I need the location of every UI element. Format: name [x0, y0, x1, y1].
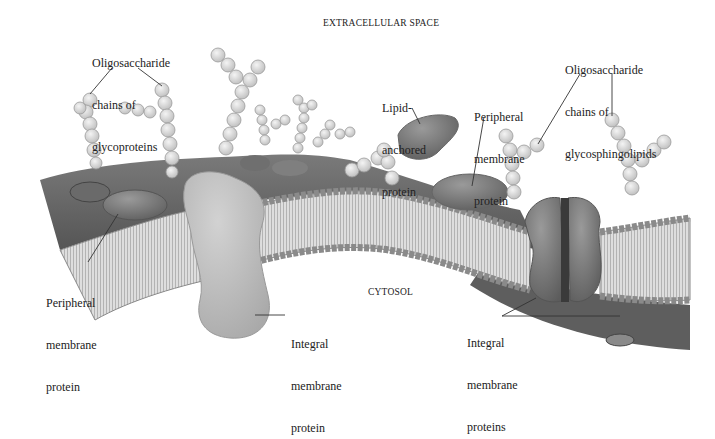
peripheral-protein-left-2 [70, 182, 110, 202]
extracellular-space-label: EXTRACELLULAR SPACE [323, 16, 439, 30]
label-integral-membrane-proteins: Integral membrane proteins [467, 308, 518, 439]
label-peripheral-membrane-protein-top: Peripheral membrane protein [474, 82, 525, 236]
cytosolic-protein [606, 334, 634, 346]
integral-channel-protein [525, 197, 601, 302]
integral-protein-large [184, 172, 270, 338]
label-lipid-anchored-protein: Lipid- anchored protein [382, 73, 426, 227]
label-integral-membrane-protein: Integral membrane protein [291, 309, 342, 439]
surface-protein [240, 155, 270, 171]
peripheral-protein-left [103, 190, 167, 220]
label-oligosaccharide-glycosphingolipids: Oligosaccharide chains of glycosphingoli… [565, 35, 656, 189]
cytosol-label: CYTOSOL [368, 285, 413, 299]
label-peripheral-membrane-protein-left: Peripheral membrane protein [46, 268, 97, 422]
surface-protein [272, 160, 308, 176]
label-oligosaccharide-glycoproteins: Oligosaccharide chains of glycoproteins [92, 28, 170, 182]
